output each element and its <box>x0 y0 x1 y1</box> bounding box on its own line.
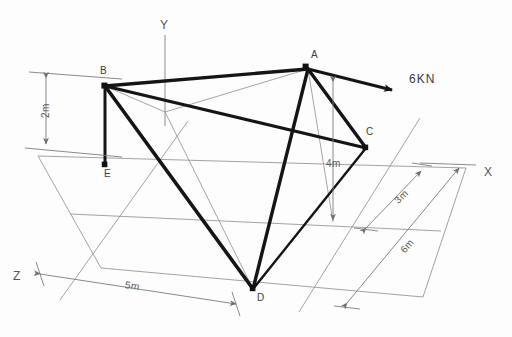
dim-label-4m: 4m <box>326 158 341 169</box>
dim-label-2m: 2m <box>40 103 51 118</box>
ground-edge-right <box>423 168 466 297</box>
proj-origin-D <box>165 112 253 289</box>
node-label-E: E <box>104 168 111 179</box>
dim-label-5m: 5m <box>124 279 141 292</box>
diagram-svg <box>0 0 512 337</box>
force-label-6kn: 6KN <box>409 72 435 86</box>
dim-3m-ext-lower <box>354 228 378 231</box>
node-dot-A <box>303 64 309 70</box>
axis-x-line <box>420 163 476 165</box>
node-dot-D <box>250 286 256 292</box>
axis-label-x: X <box>484 165 493 179</box>
node-dot-C <box>363 145 369 151</box>
proj-A-ground <box>308 69 333 222</box>
node-dot-E <box>102 162 108 168</box>
ground-plane-lines <box>38 118 466 312</box>
frame-members <box>105 69 366 289</box>
axis-label-z: Z <box>13 269 21 283</box>
diagram-canvas: A B C D E Y X Z 6KN 2m 4m 3m 6m 5m <box>0 0 512 337</box>
ground-edge-left <box>38 156 101 268</box>
node-dot-B <box>101 83 107 89</box>
construction-lines <box>105 69 366 289</box>
member-B-A <box>105 69 308 86</box>
node-label-D: D <box>257 292 265 303</box>
axis-label-y: Y <box>160 18 169 32</box>
dim-2m-ext-top <box>29 72 122 79</box>
ground-diagonal-left <box>60 121 188 300</box>
node-label-C: C <box>366 126 374 137</box>
dim-6m-ext-lower <box>334 306 360 309</box>
node-label-B: B <box>100 65 107 76</box>
dim-6m-group <box>334 168 459 309</box>
node-label-A: A <box>311 49 318 60</box>
ground-grid-mid <box>70 214 441 231</box>
